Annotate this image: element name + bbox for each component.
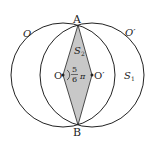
label-s2-sub: 2 xyxy=(81,50,85,57)
angle-pi: π xyxy=(79,72,86,81)
angle-numerator: 5 xyxy=(72,65,77,74)
label-circle-o-prime: O′ xyxy=(125,27,136,38)
two-circles-diagram: A B O O′ O O′ S 2 S 1 5 6 π xyxy=(0,0,149,143)
label-circle-o: O xyxy=(23,28,31,39)
angle-denominator: 6 xyxy=(72,75,77,84)
label-s1-sub: 1 xyxy=(131,75,135,82)
label-center-o: O xyxy=(54,70,62,81)
label-a: A xyxy=(72,13,82,26)
label-s1: S xyxy=(124,70,131,81)
region-s2 xyxy=(63,25,92,125)
label-center-o-prime: O′ xyxy=(94,70,105,81)
label-b: B xyxy=(73,126,81,139)
label-s2: S xyxy=(74,45,81,56)
